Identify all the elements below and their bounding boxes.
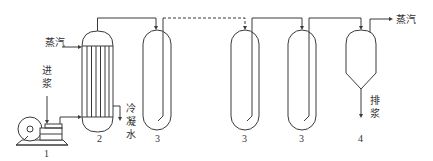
arrow-down-icon [359,26,363,30]
arrow-down-icon [300,26,304,30]
condensate-outlet-line [113,106,122,121]
holding-tube-3 [288,18,316,130]
arrow-right-icon [78,115,82,119]
arrow-down-icon [154,26,158,30]
process-flow-diagram: 蒸汽 进 浆 冷 凝 水 蒸汽 排 浆 1 2 3 3 3 4 [0,0,433,161]
condensate-label-3: 水 [126,129,136,140]
arrow-down-icon [45,120,49,124]
arrow-right-icon [389,17,393,21]
discharge-label-1: 排 [370,94,380,106]
feed-inlet-line [45,96,49,124]
equipment-number-3a: 3 [155,133,160,144]
steam-inlet-label: 蒸汽 [45,36,65,48]
equipment-number-4: 4 [358,133,363,144]
arrow-down-icon [118,117,122,121]
arrow-right-icon [78,45,82,49]
arrow-down-icon [359,114,363,118]
feed-inlet-label-2: 浆 [42,77,52,89]
pump-base [16,140,68,145]
discharge-label-2: 浆 [370,107,380,119]
condensate-label-1: 冷 [126,102,136,114]
tube2-to-tube3-line [252,18,304,30]
feed-inlet-label-1: 进 [42,65,52,76]
tube3-to-flash-tank-line [309,18,363,30]
steam-outlet-label: 蒸汽 [396,13,416,25]
equipment-number-2: 2 [97,133,102,144]
discharge-line [359,89,363,118]
equipment-number-1: 1 [44,148,49,159]
holding-tube-2 [231,18,259,130]
pump-to-heater-line [60,115,82,124]
tubular-heater [82,31,113,132]
flash-tank [346,30,376,89]
pump-motor [18,117,42,141]
steam-outlet-line [370,17,393,32]
arrow-down-icon [243,26,247,30]
equipment-number-3b: 3 [242,133,247,144]
equipment-number-3c: 3 [299,133,304,144]
condensate-label-2: 凝 [126,116,136,127]
heater-to-tube1-line [98,18,159,31]
tube1-to-tube2-dashed-line [163,18,247,30]
steam-inlet-line [62,45,82,49]
holding-tube-1 [143,18,171,130]
